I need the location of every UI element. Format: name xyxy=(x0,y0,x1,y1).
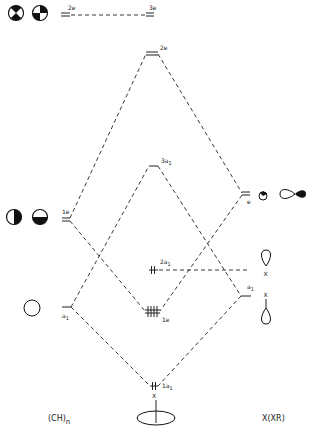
level-left-1e-label: 1e xyxy=(62,208,70,215)
orbital-icon-2e-quadrant-x xyxy=(9,6,24,21)
level-mo-1e: 1e xyxy=(145,306,170,323)
level-mo-2e-label: 2e xyxy=(160,44,168,51)
orbital-icon-1e-half-vertical xyxy=(7,210,22,225)
level-mo-2e: 2e xyxy=(146,44,168,55)
right-fragment-label: X(XR) xyxy=(262,414,285,423)
atom-x-label-bottom: X xyxy=(152,392,156,399)
orbital-icon-lone-pair-down: X xyxy=(262,291,271,324)
atom-x-label-upper: X xyxy=(264,270,268,277)
level-mo-1a1-label: 1a1 xyxy=(162,382,173,391)
orbital-icon-e-p-orbital xyxy=(280,190,306,199)
level-left-a1: a1 xyxy=(62,307,71,321)
orbital-icon-2e-quadrant-plus xyxy=(33,6,48,21)
level-mo-2a1-label: 2a1 xyxy=(160,258,171,267)
level-mo-2a1: 2a1 xyxy=(149,258,171,274)
level-right-3e-label: 3e xyxy=(149,4,157,11)
orbital-icon-a1-circle xyxy=(24,300,40,316)
level-left-a1-label: a1 xyxy=(62,312,69,321)
level-left-1e: 1e xyxy=(62,208,70,221)
mo-diagram: 2e 3e 2e 3a1 1e a1 e xyxy=(0,0,316,436)
level-left-2e-label: 2e xyxy=(68,4,76,11)
orbital-icon-e-p-lobe-small xyxy=(259,191,267,200)
orbital-icon-1e-half-horizontal xyxy=(33,210,48,225)
level-right-a1: a1 xyxy=(241,283,254,296)
correlation-lines xyxy=(70,54,242,386)
level-left-2e: 2e xyxy=(61,4,76,16)
level-mo-1a1: 1a1 xyxy=(150,382,173,391)
level-right-a1-label: a1 xyxy=(247,283,254,292)
level-right-3e: 3e xyxy=(146,4,157,16)
left-fragment-label: (CH)n xyxy=(48,414,70,426)
orbital-icon-lone-pair-up: X xyxy=(262,250,271,277)
level-mo-3a1-label: 3a1 xyxy=(161,157,172,166)
orbital-icon-x-lone-pair-bottom: X xyxy=(137,392,175,425)
level-right-e-label: e xyxy=(247,198,251,205)
level-mo-1e-label: 1e xyxy=(162,316,170,323)
level-right-e: e xyxy=(242,192,251,205)
atom-x-label-lower: X xyxy=(264,291,268,298)
level-mo-3a1: 3a1 xyxy=(149,157,172,166)
